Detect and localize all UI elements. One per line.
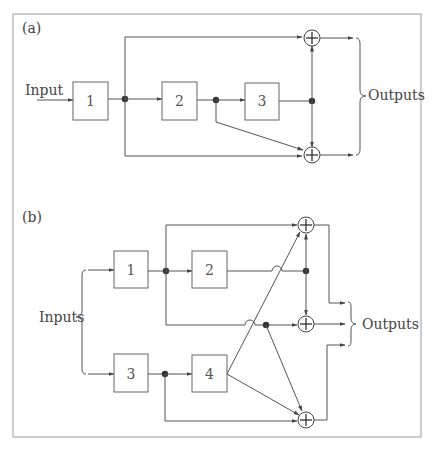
- input-label: Input: [25, 82, 64, 98]
- outputs-label: Outputs: [368, 87, 425, 103]
- panel-b: (b) Inputs 1 3 2 4: [22, 209, 419, 428]
- block-3-label: 3: [127, 366, 136, 382]
- output-brace: [348, 302, 356, 346]
- block-2-label: 2: [205, 262, 214, 278]
- summer-bottom: [298, 412, 314, 428]
- panel-b-label: (b): [22, 209, 42, 225]
- block-1-label: 1: [86, 93, 95, 109]
- summer-top: [298, 217, 314, 233]
- outputs-label: Outputs: [362, 316, 419, 332]
- block-2-label: 2: [175, 93, 184, 109]
- summer-bottom: [304, 147, 320, 163]
- panel-a-label: (a): [22, 20, 41, 36]
- block-4-label: 4: [205, 366, 214, 382]
- summer-middle: [298, 316, 314, 332]
- summer-top: [304, 30, 320, 46]
- block-1-label: 1: [127, 262, 136, 278]
- output-brace: [356, 38, 366, 155]
- diagram-canvas: (a) Input 1 2 3: [0, 0, 436, 454]
- block-3-label: 3: [258, 93, 267, 109]
- panel-a: (a) Input 1 2 3: [22, 20, 425, 163]
